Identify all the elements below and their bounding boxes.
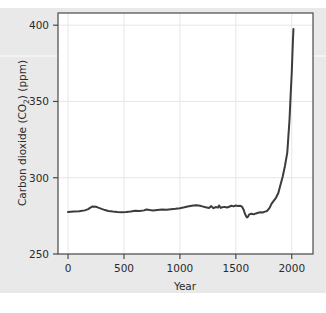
- y-tick-label: 250: [29, 248, 49, 260]
- x-tick-label: 2000: [278, 262, 305, 274]
- co2-chart-figure: 0500100015002000 250300350400 Year Carbo…: [0, 0, 326, 313]
- chart-svg: 0500100015002000 250300350400 Year Carbo…: [0, 0, 326, 313]
- y-axis-title: Carbon dioxide (CO2) (ppm): [16, 60, 31, 206]
- y-tick-label: 350: [29, 95, 49, 107]
- x-tick-label: 500: [114, 262, 134, 274]
- x-tick-label: 0: [65, 262, 72, 274]
- x-axis-tick-labels: 0500100015002000: [65, 262, 305, 274]
- x-tick-label: 1000: [167, 262, 194, 274]
- x-tick-label: 1500: [222, 262, 249, 274]
- y-axis-title-tail: ) (ppm): [16, 60, 28, 99]
- y-axis-tick-labels: 250300350400: [29, 19, 49, 260]
- y-tick-label: 300: [29, 172, 49, 184]
- y-axis-title-main: Carbon dioxide (CO: [16, 104, 28, 206]
- plot-area: 0500100015002000 250300350400 Year Carbo…: [0, 0, 326, 313]
- x-axis-title: Year: [173, 280, 197, 292]
- plot-background: [58, 13, 313, 254]
- y-tick-label: 400: [29, 19, 49, 31]
- x-axis-ticks: [68, 254, 292, 259]
- y-axis-ticks: [53, 25, 58, 254]
